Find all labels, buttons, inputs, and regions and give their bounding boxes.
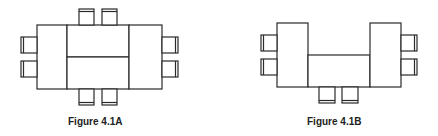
chair-icon: [342, 87, 358, 103]
chair-icon: [319, 87, 335, 103]
table-section: [129, 25, 162, 89]
table-section: [370, 23, 401, 87]
figure-4-1b-layout: [261, 23, 417, 103]
figure-caption-b: Figure 4.1B: [307, 116, 361, 127]
chair-icon: [21, 61, 37, 77]
chair-icon: [261, 35, 277, 51]
chair-icon: [102, 9, 117, 25]
figure-caption-a: Figure 4.1A: [68, 116, 122, 127]
chair-icon: [261, 59, 277, 75]
diagram-canvas: [0, 0, 438, 136]
chair-icon: [401, 59, 417, 75]
chair-icon: [102, 89, 117, 105]
table-section: [67, 25, 129, 57]
chair-icon: [79, 9, 94, 25]
table-section: [37, 25, 67, 89]
chair-icon: [162, 37, 178, 53]
chair-icon: [79, 89, 94, 105]
table-section: [277, 23, 308, 87]
figure-4-1a-layout: [21, 9, 178, 105]
table-section: [67, 57, 129, 89]
chair-icon: [401, 35, 417, 51]
chair-icon: [21, 37, 37, 53]
chair-icon: [162, 61, 178, 77]
table-section: [308, 55, 370, 87]
